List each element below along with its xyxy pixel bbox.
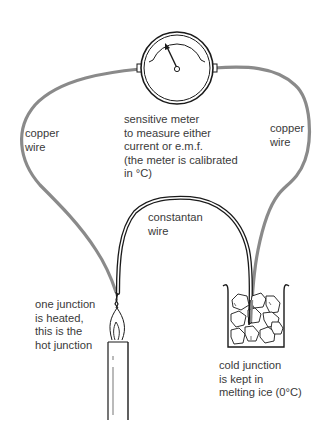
constantan-wire-label: constantan wire	[148, 211, 203, 238]
meter-gauge	[137, 32, 217, 104]
cold-junction-label: cold junction is kept in melting ice (0°…	[219, 359, 302, 400]
hot-junction	[115, 292, 118, 308]
cold-junction	[249, 300, 252, 325]
copper-wire-left-label: copper wire	[25, 127, 59, 154]
candle-flame-icon	[110, 308, 125, 340]
ice-beaker	[223, 285, 289, 347]
ice-cubes	[231, 293, 283, 344]
meter-label: sensitive meter to measure either curren…	[124, 113, 238, 181]
candle	[108, 342, 128, 420]
hot-junction-label: one junction is heated, this is the hot …	[35, 298, 95, 352]
copper-wire-left	[22, 69, 140, 292]
copper-wire-right	[214, 67, 309, 322]
copper-wire-right-label: copper wire	[270, 122, 304, 149]
